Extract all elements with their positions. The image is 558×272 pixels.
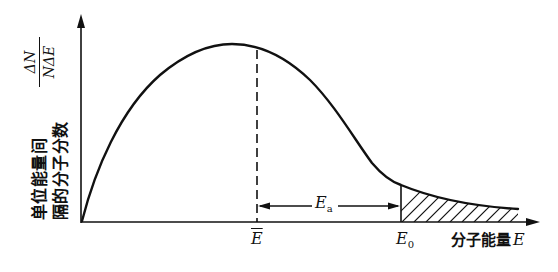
x-label-symbol: E xyxy=(513,230,525,249)
activation-energy-label: Ea xyxy=(315,193,333,214)
threshold-energy-label: E0 xyxy=(396,229,414,250)
e0-symbol: E xyxy=(396,229,408,248)
hatched-region xyxy=(390,182,550,222)
y-axis-arrow-icon xyxy=(77,14,85,28)
ea-arrow-right-icon xyxy=(388,203,400,210)
distribution-curve xyxy=(82,44,518,221)
y-label-fraction: ΔN NΔE xyxy=(22,37,57,87)
e0-subscript: 0 xyxy=(408,239,414,250)
ea-subscript: a xyxy=(327,203,333,214)
x-axis-label: 分子能量E xyxy=(451,228,525,249)
mean-energy-label: E xyxy=(251,229,263,248)
fraction-denominator: NΔE xyxy=(40,37,57,87)
ea-symbol: E xyxy=(315,193,327,212)
energy-distribution-diagram: 单位能量间 隔的分子分数 ΔN NΔE Ea E E0 分子能量E xyxy=(0,0,558,272)
fraction-numerator: ΔN xyxy=(22,37,40,87)
ea-arrow-left-icon xyxy=(258,203,270,210)
x-label-text: 分子能量 xyxy=(451,231,511,249)
y-label-line2: 隔的分子分数 xyxy=(47,121,71,220)
y-axis-label: 单位能量间 隔的分子分数 ΔN NΔE xyxy=(4,20,74,220)
x-axis-arrow-icon xyxy=(526,218,540,226)
